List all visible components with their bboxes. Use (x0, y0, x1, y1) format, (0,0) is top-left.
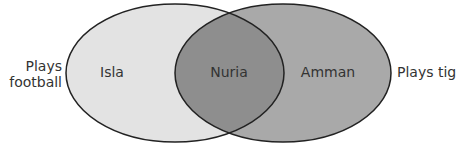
set-label-tig: Plays tig (397, 64, 456, 80)
set-label-football: Plays football (9, 58, 62, 90)
member-intersection: Nuria (210, 64, 248, 80)
member-football-only: Isla (100, 64, 124, 80)
set-label-football-line2: football (9, 74, 62, 90)
member-tig-only: Amman (301, 64, 355, 80)
set-label-football-line1: Plays (9, 58, 62, 74)
